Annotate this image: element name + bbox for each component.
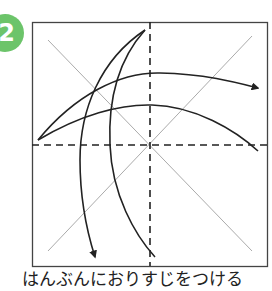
origami-diagram <box>0 0 272 291</box>
instruction-caption: はんぶんにおりすじをつける <box>22 268 272 290</box>
